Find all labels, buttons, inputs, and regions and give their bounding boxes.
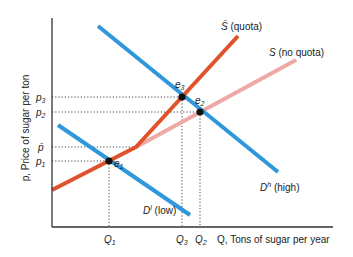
equilibrium-e1-dot [105,157,112,164]
label-pbar: p̄ [37,142,44,153]
label-p2: p2 [35,107,46,119]
label-supply-quota: S̄ (quota) [221,20,262,32]
label-p3: p3 [35,92,46,104]
supply-quota-curve [52,36,238,190]
label-e2: e2 [195,95,205,107]
label-p1: p1 [35,156,46,168]
label-e3: e3 [175,79,185,91]
label-Q3: Q3 [176,234,188,246]
label-demand-low: Dl (low) [143,204,176,216]
equilibrium-e2-dot [196,108,203,115]
x-axis-label: Q, Tons of sugar per year [217,234,330,245]
label-Q1: Q1 [104,234,116,246]
label-e1: e1 [114,158,124,170]
label-supply-no-quota: S (no quota) [269,47,324,58]
y-axis-label: p, Price of sugar per ton [20,75,31,182]
demand-high-curve [98,26,278,172]
label-Q2: Q2 [195,234,207,246]
demand-low-curve [58,125,190,215]
sugar-quota-diagram: e1 e3 e2 p3 p2 p̄ p1 Q1 Q3 Q2 Q, Tons of… [0,0,353,257]
supply-no-quota-curve [136,60,296,147]
equilibrium-e3-dot [178,93,185,100]
label-demand-high: Dh (high) [260,181,300,193]
